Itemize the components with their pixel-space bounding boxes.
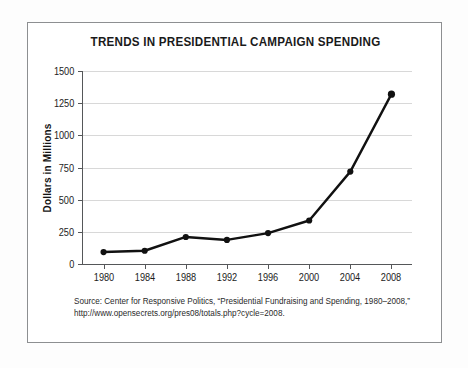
y-tick-label: 750: [59, 162, 74, 173]
data-point-marker: [306, 217, 312, 223]
x-tick-label: 2008: [381, 272, 401, 283]
plot-area: 0250500750100012501500 19801984198819921…: [83, 71, 412, 264]
data-point-marker: [388, 91, 395, 98]
source-note: Source: Center for Responsive Politics, …: [74, 295, 418, 319]
y-tick-label: 250: [59, 226, 74, 237]
figure-canvas: TRENDS IN PRESIDENTIAL CAMPAIGN SPENDING…: [0, 0, 468, 368]
x-axis-line: [82, 264, 412, 265]
line-series: [83, 71, 412, 264]
x-tick-label: 2000: [299, 272, 319, 283]
x-tick-label: 2004: [340, 272, 360, 283]
x-tick-label: 1984: [134, 272, 154, 283]
x-tick-label: 1992: [217, 272, 237, 283]
data-point-marker: [100, 249, 106, 255]
x-tick-label: 1980: [93, 272, 113, 283]
y-tick-label: 0: [70, 259, 75, 270]
data-point-marker: [265, 230, 271, 236]
data-point-marker: [347, 169, 353, 175]
source-note-line-1: Source: Center for Responsive Politics, …: [74, 295, 418, 307]
y-tick-label: 1500: [54, 66, 74, 77]
chart-frame: TRENDS IN PRESIDENTIAL CAMPAIGN SPENDING…: [27, 22, 442, 343]
y-tick-label: 1250: [54, 98, 74, 109]
source-note-line-2: http://www.opensecrets.org/pres08/totals…: [74, 307, 418, 319]
data-point-marker: [224, 237, 230, 243]
y-tick-label: 500: [59, 194, 74, 205]
data-point-marker: [183, 234, 189, 240]
x-tick-label: 1996: [258, 272, 278, 283]
y-tick-label: 1000: [54, 130, 74, 141]
x-tick-label: 1988: [176, 272, 196, 283]
data-point-marker: [142, 248, 148, 254]
